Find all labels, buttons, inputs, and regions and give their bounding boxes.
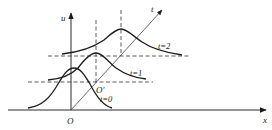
curve-label-t1: t=1 [130, 68, 142, 78]
x-axis-label: x [262, 115, 267, 125]
curve-label-t0: t=0 [100, 94, 113, 104]
u-axis-label: u [61, 13, 66, 23]
curve-label-t2: t=2 [158, 41, 171, 51]
origin-label: O [67, 116, 74, 126]
t-axis-label: t [151, 4, 154, 14]
wave-propagation-diagram: u x t O O′ t=0 t=1 t=2 [0, 0, 272, 130]
